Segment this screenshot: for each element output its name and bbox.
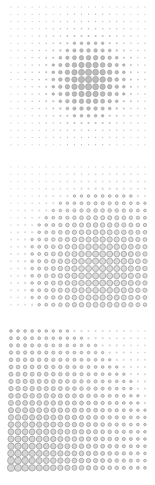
data-point	[44, 365, 48, 369]
data-point	[123, 366, 125, 368]
data-point	[29, 465, 35, 471]
data-point	[8, 443, 14, 449]
data-point	[129, 409, 132, 412]
data-point	[73, 373, 76, 376]
data-point	[94, 351, 97, 354]
data-point	[31, 344, 34, 347]
data-point	[51, 436, 56, 441]
data-point	[87, 351, 90, 354]
data-point	[95, 330, 97, 332]
data-point	[17, 337, 20, 340]
data-point	[137, 366, 139, 368]
data-point	[101, 451, 105, 455]
data-point	[108, 401, 111, 404]
data-point	[87, 344, 90, 347]
data-point	[80, 394, 84, 398]
data-point	[115, 459, 119, 463]
data-point	[144, 466, 147, 469]
data-point	[130, 330, 132, 332]
data-point	[144, 380, 146, 382]
data-point	[59, 337, 62, 340]
data-point	[52, 365, 55, 368]
data-point	[8, 429, 14, 435]
data-point	[52, 358, 55, 361]
data-point	[23, 372, 27, 376]
data-point	[123, 359, 125, 361]
data-point	[66, 351, 69, 354]
data-point	[115, 373, 118, 376]
data-point	[87, 373, 90, 376]
data-point	[58, 451, 63, 456]
data-point	[65, 415, 70, 420]
data-point	[37, 394, 41, 398]
data-point	[23, 386, 27, 390]
data-point	[86, 437, 90, 441]
data-point	[44, 394, 48, 398]
data-point	[44, 387, 48, 391]
data-point	[29, 457, 35, 463]
data-point	[22, 429, 28, 435]
data-point	[108, 416, 111, 419]
data-point	[108, 394, 111, 397]
data-point	[30, 394, 35, 399]
data-point	[51, 415, 56, 420]
data-point	[51, 408, 56, 413]
data-point	[9, 365, 13, 369]
data-point	[30, 379, 34, 383]
data-point	[123, 337, 125, 339]
data-point	[116, 337, 118, 339]
data-point	[23, 393, 28, 398]
data-point	[94, 401, 98, 405]
data-point	[101, 380, 104, 383]
data-point	[16, 386, 20, 390]
data-point	[45, 351, 48, 354]
data-point	[23, 408, 28, 413]
data-point	[59, 372, 63, 376]
data-point	[9, 344, 12, 347]
data-point	[37, 415, 42, 420]
data-point	[73, 387, 77, 391]
data-point	[59, 344, 62, 347]
data-point	[101, 359, 104, 362]
data-point	[122, 423, 125, 426]
data-point	[122, 402, 125, 405]
data-point	[137, 345, 139, 347]
data-point	[94, 387, 97, 390]
data-point	[30, 401, 35, 406]
data-point	[8, 457, 15, 464]
data-point	[130, 373, 132, 375]
data-point	[44, 372, 48, 376]
data-point	[9, 401, 14, 406]
data-point	[43, 451, 49, 457]
data-point	[94, 459, 98, 463]
data-point	[137, 416, 140, 419]
data-point	[37, 372, 41, 376]
data-point	[52, 330, 55, 333]
data-point	[108, 444, 112, 448]
data-point	[30, 372, 34, 376]
data-point	[129, 445, 132, 448]
data-point	[15, 422, 21, 428]
data-point	[86, 444, 90, 448]
data-point	[66, 344, 69, 347]
data-point	[115, 452, 119, 456]
data-point	[72, 437, 77, 442]
data-point	[115, 416, 118, 419]
data-point	[51, 394, 55, 398]
data-point	[50, 465, 56, 471]
data-point	[65, 387, 69, 391]
data-point	[72, 430, 77, 435]
data-point	[36, 429, 42, 435]
data-point	[73, 351, 76, 354]
data-point	[129, 466, 132, 469]
data-point	[94, 416, 98, 420]
data-point	[8, 408, 13, 413]
data-point	[72, 422, 76, 426]
data-point	[44, 422, 49, 427]
data-point	[22, 464, 29, 471]
data-point	[51, 451, 57, 457]
data-point	[144, 459, 147, 462]
data-point	[136, 459, 139, 462]
data-point	[94, 366, 97, 369]
data-point	[65, 429, 70, 434]
